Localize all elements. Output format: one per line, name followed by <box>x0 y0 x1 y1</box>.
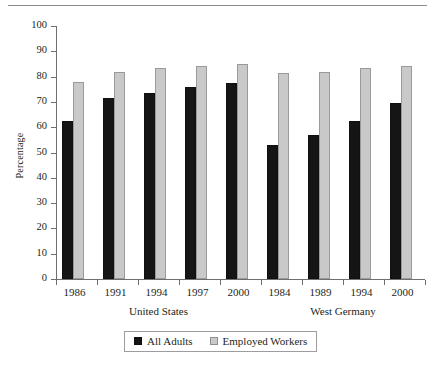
legend-swatch-icon <box>210 337 218 345</box>
bar <box>103 98 114 279</box>
bar <box>237 64 248 279</box>
bar <box>144 93 155 279</box>
y-axis-tick-label: 20 <box>21 221 47 232</box>
y-axis-tick-label: 90 <box>21 44 47 55</box>
x-axis-tick <box>56 280 57 285</box>
bar <box>196 66 207 279</box>
y-axis-tick-label: 40 <box>21 171 47 182</box>
bar <box>401 66 412 279</box>
bar-chart-figure: Percentage 0102030405060708090100 198619… <box>0 0 435 369</box>
bar <box>155 68 166 279</box>
bar <box>185 87 196 279</box>
x-axis-group-label: West Germany <box>261 305 425 317</box>
x-axis-group-label: United States <box>56 305 261 317</box>
y-axis-tick-label: 0 <box>21 272 47 283</box>
bar <box>267 145 278 279</box>
x-axis-tick <box>97 280 98 285</box>
y-axis-tick: 50 <box>51 153 56 154</box>
x-axis-category-label: 2000 <box>383 286 423 298</box>
y-axis-tick-label: 100 <box>21 19 47 30</box>
chart-legend: All AdultsEmployed Workers <box>124 331 317 352</box>
bar <box>62 121 73 279</box>
bar <box>278 73 289 279</box>
y-axis-tick: 30 <box>51 203 56 204</box>
x-axis-category-label: 2000 <box>219 286 259 298</box>
bar <box>114 72 125 279</box>
y-axis-tick-label: 80 <box>21 70 47 81</box>
y-axis-tick-label: 50 <box>21 146 47 157</box>
x-axis-category-label: 1994 <box>342 286 382 298</box>
y-axis-tick: 10 <box>51 254 56 255</box>
x-axis-category-label: 1997 <box>178 286 218 298</box>
x-axis-tick <box>302 280 303 285</box>
bar <box>349 121 360 279</box>
x-axis-category-label: 1994 <box>137 286 177 298</box>
x-axis-category-label: 1989 <box>301 286 341 298</box>
y-axis-tick: 60 <box>51 127 56 128</box>
y-axis-tick: 90 <box>51 51 56 52</box>
bar <box>308 135 319 279</box>
x-axis-tick <box>220 280 221 285</box>
x-axis-tick <box>343 280 344 285</box>
top-divider-rule <box>8 5 427 6</box>
legend-item-label: All Adults <box>147 335 193 347</box>
legend-item: All Adults <box>134 335 193 347</box>
bar <box>319 72 330 279</box>
legend-swatch-icon <box>134 337 142 345</box>
bar <box>390 103 401 279</box>
x-axis-tick <box>425 280 426 285</box>
x-axis-tick <box>138 280 139 285</box>
x-axis-category-label: 1986 <box>55 286 95 298</box>
y-axis-tick-label: 10 <box>21 247 47 258</box>
bar <box>73 82 84 279</box>
y-axis-tick: 80 <box>51 77 56 78</box>
y-axis-line <box>56 26 57 280</box>
bar <box>360 68 371 279</box>
y-axis-tick: 40 <box>51 178 56 179</box>
x-axis-tick <box>261 280 262 285</box>
y-axis-tick: 70 <box>51 102 56 103</box>
x-axis-tick <box>179 280 180 285</box>
legend-item-label: Employed Workers <box>223 335 308 347</box>
y-axis-tick-label: 60 <box>21 120 47 131</box>
x-axis-line <box>56 279 425 280</box>
y-axis-tick: 20 <box>51 228 56 229</box>
legend-item: Employed Workers <box>210 335 308 347</box>
y-axis-tick: 100 <box>51 26 56 27</box>
plot-area: 0102030405060708090100 <box>56 26 425 280</box>
bar <box>226 83 237 279</box>
y-axis-tick-label: 30 <box>21 196 47 207</box>
x-axis-category-label: 1984 <box>260 286 300 298</box>
x-axis-tick <box>384 280 385 285</box>
y-axis-tick-label: 70 <box>21 95 47 106</box>
x-axis-category-label: 1991 <box>96 286 136 298</box>
